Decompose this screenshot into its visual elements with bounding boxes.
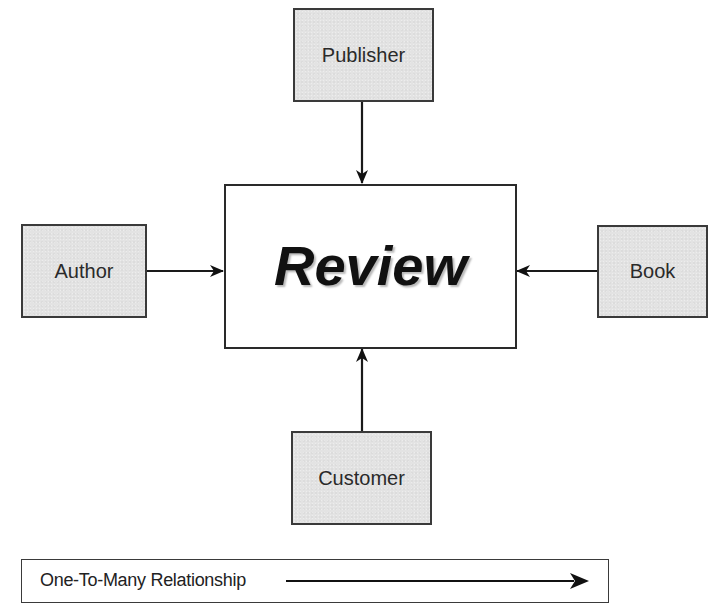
entity-publisher: Publisher [293, 8, 434, 102]
central-entity-label: Review [274, 233, 467, 298]
entity-review-central: Review [224, 184, 517, 349]
legend: One-To-Many Relationship [21, 559, 609, 603]
entity-publisher-label: Publisher [322, 44, 405, 67]
entity-book: Book [597, 225, 708, 318]
entity-customer-label: Customer [318, 467, 405, 490]
entity-author-label: Author [55, 260, 114, 283]
entity-author: Author [21, 224, 147, 318]
legend-arrow-icon [22, 560, 610, 604]
entity-customer: Customer [291, 431, 432, 525]
entity-book-label: Book [630, 260, 676, 283]
